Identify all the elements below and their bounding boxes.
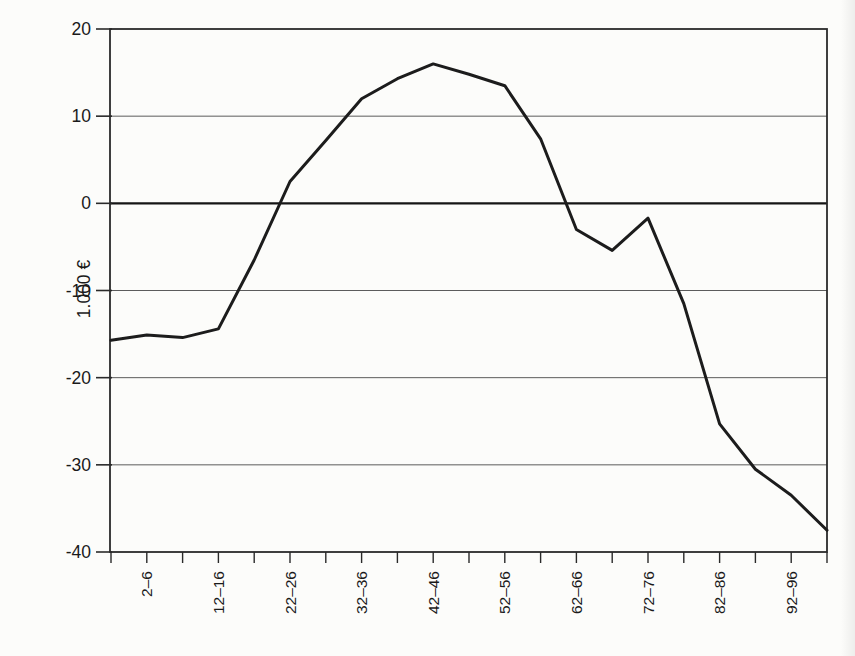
x-tick-label: 92–96 xyxy=(783,571,800,614)
y-tick-label: -20 xyxy=(66,368,92,388)
x-tick-label: 32–36 xyxy=(353,571,370,614)
chart-figure: 20100-10-20-30-402–612–1622–2632–3642–46… xyxy=(0,0,855,656)
y-tick-label: -30 xyxy=(66,455,92,475)
x-tick-label: 2–6 xyxy=(138,571,155,597)
y-axis-label: 1.000 € xyxy=(74,260,94,319)
x-tick-label: 42–46 xyxy=(425,571,442,614)
x-tick-label: 22–26 xyxy=(282,571,299,614)
y-tick-label: 10 xyxy=(72,106,92,126)
x-tick-label: 72–76 xyxy=(640,571,657,614)
y-tick-label: 0 xyxy=(81,193,91,213)
line-chart-canvas: 20100-10-20-30-402–612–1622–2632–3642–46… xyxy=(0,0,855,656)
x-tick-label: 62–66 xyxy=(568,571,585,614)
x-tick-label: 12–16 xyxy=(210,571,227,614)
x-tick-label: 52–56 xyxy=(496,571,513,614)
data-line xyxy=(111,64,827,530)
x-tick-label: 82–86 xyxy=(711,571,728,614)
y-tick-label: 20 xyxy=(72,19,92,39)
y-tick-label: -40 xyxy=(66,542,92,562)
